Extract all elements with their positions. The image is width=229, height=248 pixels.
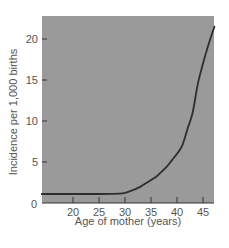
y-tick-labels: 05101520 <box>26 33 38 210</box>
y-axis-label: Incidence per 1,000 births <box>7 48 19 175</box>
y-tick-label: 5 <box>32 156 38 168</box>
y-tick-label: 15 <box>26 74 38 86</box>
plot-area <box>42 16 214 203</box>
y-tick-label: 10 <box>26 115 38 127</box>
x-tick-label: 45 <box>197 206 209 218</box>
x-axis-label: Age of mother (years) <box>75 215 181 227</box>
chart: 202530354045 05101520 Age of mother (yea… <box>0 0 229 248</box>
y-tick-label: 20 <box>26 33 38 45</box>
y-tick-label: 0 <box>31 198 37 210</box>
